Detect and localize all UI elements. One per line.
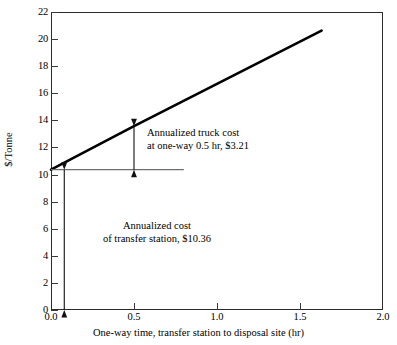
figure: 0246810121416182022 0.00.51.01.52.0 $/To…: [0, 0, 397, 345]
transfer-station-annotation: Annualized cost of transfer station, $10…: [77, 219, 237, 245]
truck-cost-annotation-line2: at one-way 0.5 hr, $3.21: [147, 139, 249, 152]
chart-overlay: [0, 0, 397, 345]
transfer-station-annotation-line2: of transfer station, $10.36: [77, 232, 237, 245]
truck-cost-annotation-line1: Annualized truck cost: [147, 127, 239, 138]
transfer-station-cost-arrow: [61, 162, 67, 317]
truck-cost-annotation: Annualized truck cost at one-way 0.5 hr,…: [147, 126, 249, 152]
transfer-station-annotation-line1: Annualized cost: [123, 220, 191, 231]
